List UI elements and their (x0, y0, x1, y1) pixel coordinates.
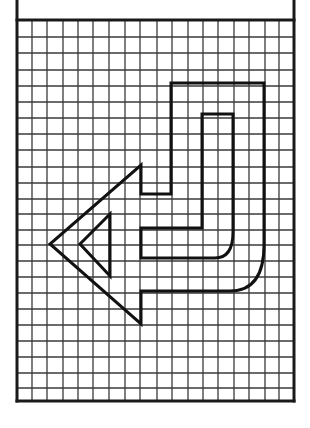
grid-drawing (0, 0, 310, 428)
